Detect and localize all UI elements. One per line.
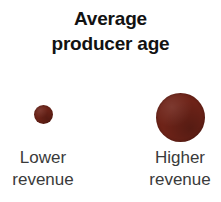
- bubble-label-higher-revenue-line-2: revenue: [130, 169, 221, 191]
- chart-title-line-2: producer age: [0, 31, 221, 56]
- bubble-slot-lower-revenue: [0, 85, 93, 145]
- plot-area: Lower revenue Higher revenue: [0, 85, 221, 202]
- bubble-label-higher-revenue: Higher revenue: [130, 147, 221, 191]
- bubble-group-higher-revenue: Higher revenue: [130, 85, 221, 202]
- chart-title-line-1: Average: [0, 6, 221, 31]
- chart-title: Average producer age: [0, 6, 221, 56]
- bubble-slot-higher-revenue: [130, 85, 221, 145]
- bubble-group-lower-revenue: Lower revenue: [0, 85, 93, 202]
- bubble-label-lower-revenue-line-1: Lower: [0, 147, 93, 169]
- bubble-chart-infographic: Average producer age Lower revenue Highe…: [0, 0, 221, 202]
- bubble-label-lower-revenue-line-2: revenue: [0, 169, 93, 191]
- bubble-higher-revenue: [156, 93, 205, 142]
- bubble-label-lower-revenue: Lower revenue: [0, 147, 93, 191]
- bubble-lower-revenue: [34, 105, 53, 124]
- bubble-label-higher-revenue-line-1: Higher: [130, 147, 221, 169]
